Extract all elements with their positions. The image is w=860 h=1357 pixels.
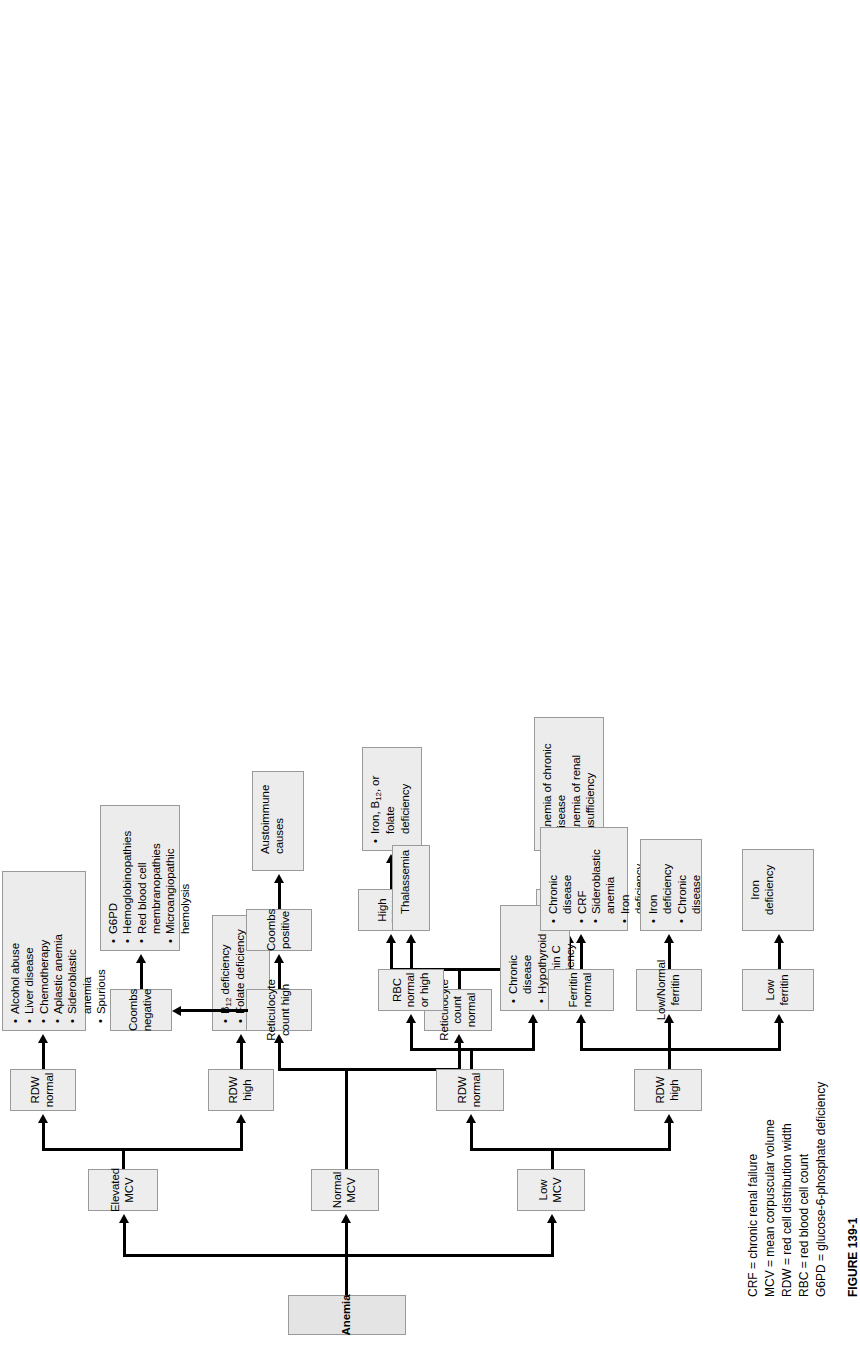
arrowhead-ferritin-normal-out <box>576 934 586 943</box>
node-coombs-positive: Coombs positive <box>246 909 312 951</box>
connector-low-rdwhigh <box>668 1121 671 1151</box>
outcome-list: Thalassemia <box>399 853 412 923</box>
figure-caption-number: FIGURE 139-1 <box>846 1218 860 1297</box>
node-low-normal-ferritin: Low/Normal ferritin <box>636 969 702 1011</box>
outcome-list: Chronic disease CRF Sideroblastic anemia… <box>547 835 646 923</box>
figure-caption: FIGURE 139-1 <box>846 1218 860 1297</box>
arrowhead-ferritin-normal <box>576 1014 586 1023</box>
outcome-coombs-negative: G6PD Hemoglobinopathies Red blood cell m… <box>100 805 180 951</box>
outcome-ferritin-normal: Chronic disease CRF Sideroblastic anemia… <box>540 827 628 931</box>
arrowhead-elev-rdwnormal-out <box>38 1034 48 1043</box>
node-normal-mcv: Normal MCV <box>311 1169 379 1211</box>
node-rdw-high-low: RDW high <box>634 1069 702 1111</box>
connector-low-bus <box>470 1148 670 1151</box>
arrowhead-elev-rdwnormal <box>38 1114 48 1123</box>
outcome-list: Iron, B12, or folate deficiency <box>369 755 412 843</box>
connector-root-stem <box>345 1255 348 1295</box>
connector-coombs-pos-out <box>278 881 281 909</box>
node-low-mcv: Low MCV <box>517 1169 585 1211</box>
arrowhead-high-rdw <box>386 934 396 943</box>
connector-retic-high-coombs-pos <box>278 961 281 989</box>
outcome-thalassemia: Thalassemia <box>392 845 430 931</box>
connector-retic-high-coombs-neg <box>180 1009 248 1012</box>
outcome-high-rdw: Iron, B12, or folate deficiency <box>362 747 422 851</box>
connector-to-low-mcv <box>551 1221 554 1257</box>
legend-line: G6PD = glucose-6-phosphate deficiency <box>813 1082 830 1297</box>
connector-low-normal-ferritin-out <box>668 941 671 969</box>
connector-rbc-normal-or-high <box>410 1021 413 1051</box>
connector-low-ferritin <box>778 1021 781 1051</box>
arrowhead-rbc-normal-or-high <box>406 1014 416 1023</box>
node-anemia: Anemia <box>288 1295 406 1335</box>
arrowhead-elev-rdwhigh <box>236 1114 246 1123</box>
arrowhead-coombs-negative <box>172 1006 181 1016</box>
outcome-list: Austoimmune causes <box>259 779 287 863</box>
node-low-ferritin: Low ferritin <box>742 969 814 1011</box>
legend-line: CRF = chronic renal failure <box>745 1082 762 1297</box>
node-reticulocyte-count-high: Reticulocyte count high <box>246 989 312 1031</box>
node-rdw-normal-elevated: RDW normal <box>10 1069 76 1111</box>
arrowhead-coombs-positive <box>274 954 284 963</box>
outcome-list: Iron deficiency Chronic disease <box>647 847 703 923</box>
connector-normal-stem <box>345 1069 348 1169</box>
connector-elev-rdwnormal-out <box>42 1041 45 1069</box>
connector-retic-normal <box>458 1041 461 1071</box>
arrowhead-low-rdwnormal <box>466 1114 476 1123</box>
connector-elev-rdwnormal <box>42 1121 45 1151</box>
connector-low-ferritin-out <box>778 941 781 969</box>
arrowhead-rbc-out <box>406 934 416 943</box>
connector-to-elevated-mcv <box>123 1221 126 1257</box>
arrowhead-low-rdwnormal-out <box>528 1014 538 1023</box>
arrowhead-coombs-pos-out <box>274 874 284 883</box>
arrowhead-coombs-neg-out <box>136 954 146 963</box>
connector-elev-rdwhigh <box>240 1121 243 1151</box>
arrowhead-elevated-mcv <box>119 1214 129 1223</box>
node-rdw-normal-low: RDW normal <box>436 1069 504 1111</box>
connector-coombs-neg-out <box>140 961 143 989</box>
node-rbc-normal-or-high: RBC normal or high <box>378 969 444 1011</box>
connector-ferritin-normal <box>580 1021 583 1051</box>
connector-retic-high <box>278 1041 281 1071</box>
connector-elev-rdwhigh-out <box>240 1041 243 1069</box>
legend-line: RBC = red blood cell count <box>796 1082 813 1297</box>
legend-line: MCV = mean corpuscular volume <box>762 1082 779 1297</box>
arrowhead-normal-mcv <box>341 1214 351 1223</box>
connector-high-rdw <box>390 941 393 971</box>
connector-low-stem <box>551 1149 554 1169</box>
outcome-low-normal-ferritin: Iron deficiency Chronic disease <box>640 839 702 931</box>
legend-line: RDW = red cell distribution width <box>779 1082 796 1297</box>
node-elevated-mcv: Elevated MCV <box>88 1169 158 1211</box>
outcome-list: Iron deficiency <box>749 857 777 923</box>
connector-low-normal-ferritin <box>668 1021 671 1051</box>
connector-elevated-stem <box>122 1149 125 1169</box>
abbreviation-legend: CRF = chronic renal failure MCV = mean c… <box>745 1082 830 1297</box>
connector-root-bus <box>123 1254 553 1257</box>
b12-deficiency-item: B12 deficiency <box>219 923 233 1023</box>
connector-low-rdwhigh-stem <box>668 1049 671 1069</box>
node-ferritin-normal: Ferritin normal <box>548 969 614 1011</box>
arrowhead-low-rdwhigh <box>664 1114 674 1123</box>
iron-b12-folate-item: Iron, B12, or <box>369 755 383 843</box>
node-rdw-high-elevated: RDW high <box>208 1069 274 1111</box>
connector-elevated-bus <box>42 1148 242 1151</box>
arrowhead-low-ferritin <box>774 1014 784 1023</box>
connector-low-rdwnormal <box>470 1121 473 1151</box>
outcome-low-ferritin: Iron deficiency <box>742 849 814 931</box>
outcome-list: B12 deficiency Folate deficiency <box>219 923 248 1023</box>
connector-low-rdwhigh-bus <box>580 1048 780 1051</box>
connector-normal-bus <box>278 1068 460 1071</box>
outcome-list: Anemia of chronic disease Anemia of rena… <box>541 725 597 843</box>
connector-low-rdwnormal-stem <box>470 1049 473 1069</box>
connector-ferritin-normal-out <box>580 941 583 969</box>
connector-low-rdwnormal-out <box>532 1021 535 1051</box>
node-coombs-negative: Coombs negative <box>110 989 172 1031</box>
arrowhead-low-mcv <box>547 1214 557 1223</box>
connector-rbc-out <box>410 941 413 969</box>
arrowhead-elev-rdwhigh-out <box>236 1034 246 1043</box>
outcome-list: G6PD Hemoglobinopathies Red blood cell m… <box>107 813 192 943</box>
arrowhead-low-ferritin-out <box>774 934 784 943</box>
outcome-coombs-positive: Austoimmune causes <box>252 771 304 871</box>
outcome-list: Alcohol abuse Liver disease Chemotherapy… <box>9 879 108 1023</box>
arrowhead-low-normal-ferritin-out <box>664 934 674 943</box>
